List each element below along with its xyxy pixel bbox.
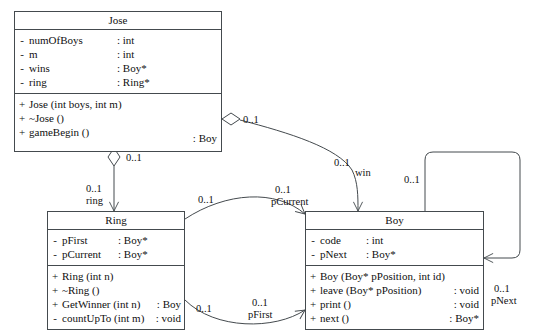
multiplicity-boy-pnext-target: 0..1 bbox=[494, 283, 510, 295]
member-name: countUpTo (int m) bbox=[62, 311, 156, 325]
attribute-row: - code : int bbox=[306, 233, 483, 247]
return-type-gamebegin: : Boy bbox=[193, 132, 217, 145]
visibility-marker: + bbox=[15, 111, 29, 125]
visibility-marker: + bbox=[306, 269, 320, 283]
member-name: Boy (Boy* pPosition, int id) bbox=[320, 269, 483, 283]
visibility-marker: + bbox=[15, 97, 29, 111]
attribute-row: - pCurrent : Boy* bbox=[48, 247, 184, 261]
class-attributes-boy: - code : int - pNext : Boy* bbox=[306, 230, 483, 266]
attribute-row: - numOfBoys : int bbox=[15, 33, 221, 47]
multiplicity-ring-boy-pcurrent-target: 0..1 bbox=[275, 184, 291, 196]
member-name: Jose (int boys, int m) bbox=[29, 97, 122, 111]
visibility-marker: + bbox=[306, 283, 320, 297]
operation-row: + ~Ring () bbox=[48, 283, 184, 297]
member-type: : Boy* bbox=[449, 311, 483, 325]
member-name: pCurrent bbox=[62, 247, 118, 261]
visibility-marker: + bbox=[306, 311, 320, 325]
uml-class-diagram-canvas: Ring top : "ring" --> curved down to Boy… bbox=[0, 0, 536, 335]
attribute-row: - m : int bbox=[15, 47, 221, 61]
visibility-marker: + bbox=[306, 297, 320, 311]
member-type: : Boy* bbox=[117, 61, 147, 75]
operation-row: + Jose (int boys, int m) bbox=[15, 97, 221, 111]
class-operations-ring: + Ring (int n) + ~Ring () + GetWinner (i… bbox=[48, 266, 184, 329]
visibility-marker: + bbox=[48, 297, 62, 311]
attribute-row: - pNext : Boy* bbox=[306, 247, 483, 261]
member-type: : int bbox=[117, 47, 134, 61]
role-jose-ring-target: ring bbox=[86, 195, 103, 207]
class-box-jose[interactable]: Jose - numOfBoys : int - m : int - wins … bbox=[14, 11, 222, 152]
member-name: pNext bbox=[320, 247, 366, 261]
operation-row: - countUpTo (int m) : void bbox=[48, 311, 184, 325]
class-operations-boy: + Boy (Boy* pPosition, int id) + leave (… bbox=[306, 266, 483, 329]
attribute-row: - pFirst : Boy* bbox=[48, 233, 184, 247]
member-name: pFirst bbox=[62, 233, 118, 247]
class-name-boy: Boy bbox=[306, 212, 483, 230]
operation-row: + leave (Boy* pPosition) : void bbox=[306, 283, 483, 297]
class-attributes-ring: - pFirst : Boy* - pCurrent : Boy* bbox=[48, 230, 184, 266]
member-name: ~Jose () bbox=[29, 111, 64, 125]
operation-row: + GetWinner (int n) : Boy bbox=[48, 297, 184, 311]
operation-row: + print () : void bbox=[306, 297, 483, 311]
multiplicity-boy-pnext-source: 0..1 bbox=[404, 174, 420, 186]
visibility-marker: - bbox=[48, 247, 62, 261]
operation-row: + Ring (int n) bbox=[48, 269, 184, 283]
visibility-marker: + bbox=[15, 125, 29, 139]
role-ring-boy-pcurrent-target: pCurrent bbox=[271, 196, 308, 208]
multiplicity-ring-boy-pcurrent-source: 0..1 bbox=[198, 194, 214, 206]
operation-row: + ~Jose () bbox=[15, 111, 221, 125]
member-name: next () bbox=[320, 311, 449, 325]
member-name: gameBegin () bbox=[29, 125, 89, 139]
operation-row: + Boy (Boy* pPosition, int id) bbox=[306, 269, 483, 283]
class-name-ring: Ring bbox=[48, 212, 184, 230]
visibility-marker: - bbox=[15, 47, 29, 61]
member-name: leave (Boy* pPosition) bbox=[320, 283, 454, 297]
member-name: ring bbox=[29, 75, 117, 89]
visibility-marker: - bbox=[15, 75, 29, 89]
visibility-marker: - bbox=[306, 247, 320, 261]
member-name: wins bbox=[29, 61, 117, 75]
visibility-marker: + bbox=[48, 283, 62, 297]
member-name: numOfBoys bbox=[29, 33, 117, 47]
operation-row: + gameBegin () bbox=[15, 125, 221, 139]
aggregation-diamond-jose-boy bbox=[222, 113, 240, 125]
member-name: code bbox=[320, 233, 366, 247]
member-type: : int bbox=[366, 233, 383, 247]
visibility-marker: - bbox=[15, 61, 29, 75]
multiplicity-jose-ring-target: 0..1 bbox=[86, 183, 102, 195]
class-operations-jose: + Jose (int boys, int m) + ~Jose () + ga… bbox=[15, 94, 221, 151]
attribute-row: - wins : Boy* bbox=[15, 61, 221, 75]
member-type: : Boy* bbox=[118, 247, 148, 261]
member-type: : Ring* bbox=[117, 75, 150, 89]
edge-jose-ring bbox=[108, 148, 120, 211]
member-type: : void bbox=[156, 311, 184, 325]
class-box-boy[interactable]: Boy - code : int - pNext : Boy* + Boy (B… bbox=[305, 211, 484, 330]
class-box-ring[interactable]: Ring - pFirst : Boy* - pCurrent : Boy* +… bbox=[47, 211, 185, 330]
class-name-jose: Jose bbox=[15, 12, 221, 30]
member-name: m bbox=[29, 47, 117, 61]
member-type: : Boy* bbox=[366, 247, 396, 261]
multiplicity-ring-boy-pfirst-source: 0..1 bbox=[196, 303, 212, 315]
member-name: Ring (int n) bbox=[62, 269, 184, 283]
visibility-marker: + bbox=[48, 269, 62, 283]
operation-row: + next () : Boy* bbox=[306, 311, 483, 325]
member-type: : Boy bbox=[157, 297, 184, 311]
member-type: : void bbox=[454, 297, 483, 311]
visibility-marker: - bbox=[48, 311, 62, 325]
member-name: print () bbox=[320, 297, 454, 311]
multiplicity-jose-boy-source: 0..1 bbox=[243, 114, 259, 126]
multiplicity-jose-ring-source: 0..1 bbox=[126, 152, 142, 164]
member-type: : Boy* bbox=[118, 233, 148, 247]
multiplicity-ring-boy-pfirst-target: 0..1 bbox=[252, 297, 268, 309]
visibility-marker: - bbox=[15, 33, 29, 47]
role-jose-boy-target: win bbox=[355, 167, 371, 179]
member-type: : void bbox=[454, 283, 483, 297]
visibility-marker: - bbox=[306, 233, 320, 247]
member-type: : int bbox=[117, 33, 134, 47]
member-name: ~Ring () bbox=[62, 283, 184, 297]
role-ring-boy-pfirst-target: pFirst bbox=[248, 309, 273, 321]
visibility-marker: - bbox=[48, 233, 62, 247]
class-attributes-jose: - numOfBoys : int - m : int - wins : Boy… bbox=[15, 30, 221, 94]
attribute-row: - ring : Ring* bbox=[15, 75, 221, 89]
multiplicity-jose-boy-target: 0..1 bbox=[334, 157, 350, 169]
member-name: GetWinner (int n) bbox=[62, 297, 157, 311]
